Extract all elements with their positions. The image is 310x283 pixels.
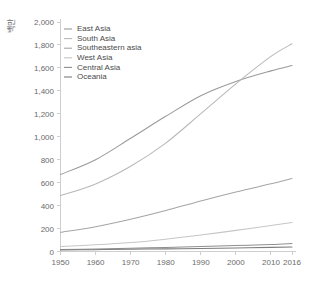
y-tick-label: 800 [41, 156, 55, 165]
y-tick-label: 200 [41, 225, 55, 234]
legend-label: Oceania [77, 72, 107, 81]
x-tick-label: 1960 [87, 258, 105, 267]
y-tick-label: 400 [41, 202, 55, 211]
x-tick-label: 1950 [52, 258, 70, 267]
y-tick-label: 1,000 [34, 133, 55, 142]
legend-label: South Asia [77, 34, 116, 43]
legend-label: Southeastern asia [77, 43, 142, 52]
x-tick-label: 2016 [283, 258, 301, 267]
legend-label: Central Asia [77, 63, 121, 72]
chart-legend: East AsiaSouth AsiaSoutheastern asiaWest… [64, 24, 142, 81]
line-chart-container: 백만 02004006008001,0001,2001,4001,6001,80… [0, 0, 310, 283]
y-axis-ticks: 02004006008001,0001,2001,4001,6001,8002,… [34, 18, 61, 257]
y-tick-label: 1,200 [34, 110, 55, 119]
series-line [61, 179, 293, 233]
y-tick-label: 1,400 [34, 87, 55, 96]
chart-canvas: 백만 02004006008001,0001,2001,4001,6001,80… [0, 0, 310, 283]
x-tick-label: 1980 [157, 258, 175, 267]
legend-label: West Asia [77, 53, 113, 62]
y-axis-title: 백만 [6, 18, 16, 33]
y-tick-label: 1,800 [34, 41, 55, 50]
y-tick-label: 600 [41, 179, 55, 188]
x-tick-label: 1970 [122, 258, 140, 267]
x-tick-label: 2000 [227, 258, 245, 267]
y-tick-label: 2,000 [34, 18, 55, 27]
x-axis-ticks: 19501960197019801990200020102016 [52, 252, 302, 268]
series-line [61, 66, 293, 175]
x-tick-label: 1990 [192, 258, 210, 267]
y-tick-label: 1,600 [34, 64, 55, 73]
series-line [61, 223, 293, 247]
legend-label: East Asia [77, 24, 111, 33]
y-tick-label: 0 [50, 248, 55, 257]
x-tick-label: 2010 [262, 258, 280, 267]
